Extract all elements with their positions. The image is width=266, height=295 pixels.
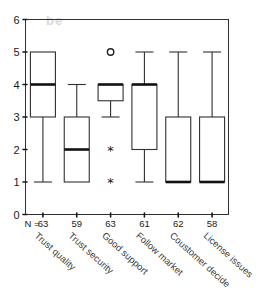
boxplot-figure: 0123456**N =635963616258Trust qualityTru… (0, 0, 266, 295)
y-axis-tick-label: 4 (13, 79, 19, 91)
y-axis-tick-label: 5 (13, 46, 19, 58)
extreme-marker: * (107, 175, 114, 190)
box-4[interactable] (132, 85, 157, 150)
y-axis-tick-label: 3 (13, 111, 19, 123)
n-value-6: 58 (207, 218, 218, 229)
outlier-marker (107, 49, 113, 55)
n-value-1: 63 (38, 218, 49, 229)
box-6[interactable] (200, 117, 225, 182)
box-5[interactable] (166, 117, 191, 182)
category-label-5: Coustomer decide (168, 230, 233, 290)
y-axis-tick-label: 6 (13, 14, 19, 26)
y-axis-tick-label: 0 (13, 209, 19, 221)
n-value-5: 62 (173, 218, 184, 229)
boxplot-svg: 0123456**N =635963616258Trust qualityTru… (0, 0, 266, 295)
y-axis-tick-label: 2 (13, 144, 19, 156)
n-value-4: 61 (139, 218, 150, 229)
y-axis-tick-label: 1 (13, 176, 19, 188)
n-value-3: 63 (105, 218, 116, 229)
extreme-marker: * (107, 143, 114, 158)
box-3[interactable] (98, 85, 123, 101)
n-value-2: 59 (71, 218, 82, 229)
